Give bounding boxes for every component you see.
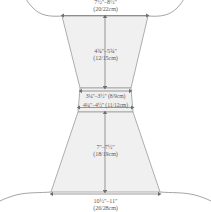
hem-curve-right — [160, 192, 211, 201]
waist-band-panel — [78, 88, 133, 112]
hem-curve-group — [0, 192, 211, 201]
shoulder-curve-right — [148, 0, 184, 16]
skirt-panel — [51, 112, 160, 192]
diagram-canvas: 7½"–8½" (20/22cm) 4¾"–5¾" (12/15cm) 3¼"–… — [0, 0, 211, 212]
shoulder-curve-left — [26, 0, 62, 16]
garment-schematic-svg — [0, 0, 211, 212]
garment-fill-group — [51, 16, 160, 192]
hem-curve-left — [0, 192, 51, 201]
shoulder-curve-group — [26, 0, 184, 16]
